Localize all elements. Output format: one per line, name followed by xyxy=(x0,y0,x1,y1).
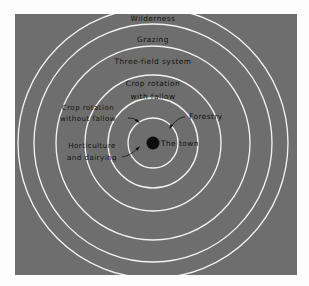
label-crop-rotation-with-fallow-line2: with fallow xyxy=(131,92,176,101)
figure-root: Wilderness Grazing Three-field system Cr… xyxy=(0,0,309,286)
von-thunen-diagram: Wilderness Grazing Three-field system Cr… xyxy=(0,0,309,286)
label-three-field-system: Three-field system xyxy=(114,57,192,66)
label-crop-rotation-without-fallow-line2: without fallow xyxy=(60,114,116,123)
label-crop-rotation-without-fallow-line1: Crop rotation xyxy=(62,103,114,112)
town-center-dot xyxy=(147,137,160,150)
label-the-town: The town xyxy=(160,139,199,148)
label-grazing: Grazing xyxy=(137,35,169,44)
label-wilderness: Wilderness xyxy=(131,14,176,23)
label-horticulture-and-dairying-line1: Horticulture xyxy=(68,141,116,150)
label-horticulture-and-dairying-line2: and dairying xyxy=(67,153,117,162)
label-forestry: Forestry xyxy=(189,112,223,121)
label-crop-rotation-with-fallow-line1: Crop rotation xyxy=(126,79,180,88)
